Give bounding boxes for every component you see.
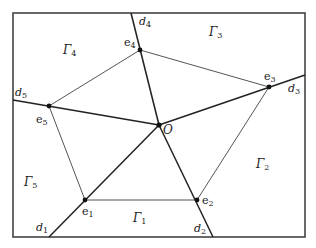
ray-d4 [131,13,159,125]
label-d1: d1 [36,221,48,235]
edge-e3-e4 [140,50,269,87]
region-gamma-3: Γ3 [208,25,222,40]
ray-d3 [159,75,305,125]
ray-d5 [13,100,159,125]
point-O [156,122,161,127]
label-e4: e4 [124,36,136,50]
edge-e5-e1 [49,106,85,200]
edge-e2-e3 [197,87,269,200]
label-O: O [163,123,173,137]
point-e3 [267,85,272,90]
voronoi-diagram: O e1 e2 e3 e4 e5 d1 d2 d3 d4 d5 Γ1 Γ2 Γ3… [0,0,316,248]
point-e2 [195,198,200,203]
label-d3: d3 [288,82,300,96]
label-d4: d4 [139,15,151,29]
ray-d2 [159,125,213,237]
region-gamma-4: Γ4 [62,43,76,58]
label-d2: d2 [194,222,206,236]
point-e4 [138,48,143,53]
region-gamma-2: Γ2 [255,157,269,172]
region-gamma-5: Γ5 [23,175,37,190]
region-gamma-1: Γ1 [132,211,146,226]
label-e5: e5 [36,113,48,127]
point-e1 [83,198,88,203]
label-e3: e3 [264,70,276,84]
edge-e4-e5 [49,50,140,106]
label-e2: e2 [202,194,214,208]
point-e5 [47,104,52,109]
points [47,48,272,203]
label-e1: e1 [82,205,94,219]
label-d5: d5 [15,86,27,100]
